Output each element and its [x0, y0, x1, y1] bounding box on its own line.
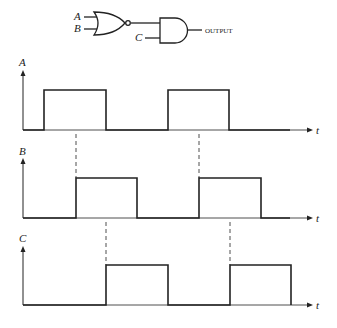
- waveform-b-label: B: [19, 145, 26, 157]
- input-a-label: A: [73, 10, 81, 22]
- alignment-dashes-ab: [76, 134, 199, 178]
- waveform-a-label: A: [18, 56, 26, 68]
- nor-gate-icon: [94, 12, 125, 35]
- inverter-bubble-icon: [126, 21, 131, 26]
- input-c-label: C: [135, 31, 143, 43]
- waveform-b: B t: [19, 145, 320, 224]
- input-b-label: B: [74, 22, 81, 34]
- waveform-c: C t: [19, 232, 320, 311]
- timing-diagram: A B C OUTPUT A t B t: [0, 0, 337, 328]
- logic-circuit: A B C OUTPUT: [73, 10, 233, 43]
- time-axis-label: t: [316, 299, 320, 311]
- time-axis-label: t: [316, 124, 320, 136]
- output-label: OUTPUT: [205, 27, 233, 35]
- waveform-a: A t: [18, 56, 320, 136]
- alignment-dashes-bc: [106, 222, 230, 265]
- waveform-c-label: C: [19, 232, 27, 244]
- and-gate-icon: [160, 18, 187, 43]
- time-axis-label: t: [316, 212, 320, 224]
